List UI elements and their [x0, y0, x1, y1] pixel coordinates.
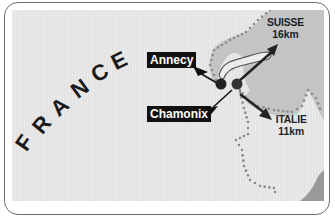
border-dot — [239, 137, 242, 140]
border-dot — [274, 191, 277, 194]
annecy-marker-icon[interactable] — [216, 79, 227, 90]
border-dot — [254, 182, 257, 185]
border-dot — [225, 41, 228, 44]
border-dot — [301, 105, 304, 108]
border-dot — [268, 186, 271, 189]
border-dot — [257, 19, 260, 22]
border-dot — [239, 91, 242, 94]
border-dot — [277, 109, 280, 112]
border-dot — [311, 93, 314, 96]
border-dot — [211, 54, 214, 57]
terrain-corner — [300, 170, 324, 201]
border-dot — [211, 69, 214, 72]
border-dot — [217, 46, 220, 49]
border-dot — [242, 159, 245, 162]
chamonix-marker-icon[interactable] — [232, 79, 243, 90]
border-dot — [265, 12, 268, 15]
border-dot — [247, 121, 250, 124]
border-dot — [209, 64, 212, 67]
border-dot — [247, 133, 250, 136]
city-label-chamonix[interactable]: Chamonix — [147, 106, 211, 122]
border-dot — [238, 144, 241, 147]
border-dot — [267, 107, 270, 110]
border-dot — [247, 174, 250, 177]
border-dot — [213, 74, 216, 77]
border-dot — [303, 99, 306, 102]
border-dot — [273, 109, 276, 112]
border-dot — [247, 127, 250, 130]
border-dot — [249, 27, 252, 30]
city-label-annecy[interactable]: Annecy — [147, 52, 196, 68]
border-dot — [241, 33, 244, 36]
border-dot — [241, 101, 244, 104]
border-dot — [263, 185, 266, 188]
neighbor-distance-italie: 11km — [276, 125, 307, 137]
border-dot — [243, 165, 246, 168]
border-dot — [233, 37, 236, 40]
border-dot — [319, 107, 322, 110]
border-dot — [245, 116, 248, 119]
border-dot — [259, 185, 262, 188]
border-dot — [235, 139, 238, 142]
border-dot — [241, 154, 244, 157]
border-dot — [261, 15, 264, 18]
neighbor-name-suisse: SUISSE — [267, 16, 304, 28]
border-dot — [213, 49, 216, 52]
border-dot — [262, 106, 265, 109]
border-dot — [245, 169, 248, 172]
border-dot — [210, 59, 213, 62]
border-dot — [307, 89, 310, 92]
border-dot — [244, 111, 247, 114]
border-dot — [317, 102, 320, 105]
border-dot — [273, 187, 276, 190]
border-dot — [221, 44, 224, 47]
border-dot — [296, 108, 299, 111]
neighbor-distance-suisse: 16km — [267, 28, 304, 40]
border-dot — [245, 31, 248, 34]
border-dot — [237, 35, 240, 38]
border-dot — [241, 149, 244, 152]
border-dot — [243, 107, 246, 110]
neighbor-label-italie: ITALIE 11km — [274, 113, 308, 137]
border-dot — [282, 110, 285, 113]
border-dot — [243, 135, 246, 138]
neighbor-name-italie: ITALIE — [276, 113, 307, 125]
border-dot — [253, 23, 256, 26]
neighbor-label-suisse: SUISSE 16km — [265, 16, 306, 40]
map-area: F R A N C E Annecy Chamonix SUISSE 16km … — [12, 10, 324, 201]
border-dot — [229, 39, 232, 42]
border-dot — [315, 97, 318, 100]
border-dot — [305, 94, 308, 97]
border-dot — [249, 179, 252, 182]
chamonix-leader-line — [210, 90, 232, 110]
